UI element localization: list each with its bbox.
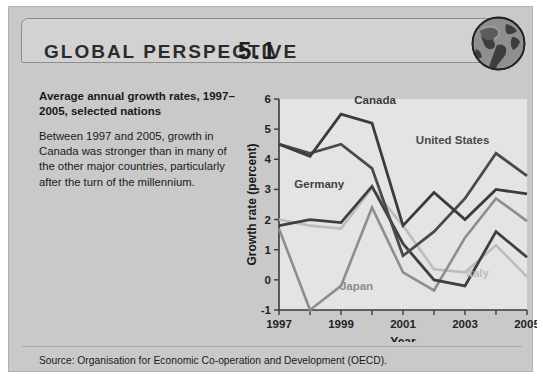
y-axis-tick-label: 4 [265,153,272,165]
y-axis-tick-label: 5 [265,123,272,135]
series-label-germany: Germany [294,178,344,190]
x-axis-tick-label: 1997 [266,318,292,330]
y-axis-title: Growth rate (percent) [245,143,259,265]
figure-page: GLOBAL PERSPECTIVE 5.1 Average [0,0,543,387]
footer-divider [22,346,522,347]
globe-icon [470,15,527,72]
chart-svg: -1012345619971999200120032005YearGrowth … [245,87,537,342]
header-banner: GLOBAL PERSPECTIVE 5.1 [21,18,499,63]
series-label-italy: Italy [466,267,490,279]
y-axis-tick-label: 3 [265,183,271,195]
y-axis-tick-label: -1 [261,304,272,316]
y-axis-tick-label: 6 [265,93,271,105]
series-label-japan: Japan [340,280,373,292]
x-axis-title: Year [390,335,416,342]
x-axis-tick-label: 2005 [514,318,537,330]
x-axis-tick-label: 2003 [452,318,478,330]
source-note: Source: Organisation for Economic Co-ope… [39,355,387,366]
panel-lead-text: Average annual growth rates, 1997–2005, … [39,89,239,119]
figure-number: 5.1 [238,37,277,65]
x-axis-tick-label: 1999 [328,318,354,330]
y-axis-tick-label: 0 [265,274,271,286]
series-label-canada: Canada [354,94,396,106]
x-axis-tick-label: 2001 [390,318,416,330]
y-axis-tick-label: 1 [265,244,272,256]
y-axis-tick-label: 2 [265,214,271,226]
panel-body-text: Between 1997 and 2005, growth in Canada … [39,129,244,190]
series-label-united-states: United States [416,134,490,146]
figure-card: GLOBAL PERSPECTIVE 5.1 Average [8,6,533,372]
growth-rate-line-chart: -1012345619971999200120032005YearGrowth … [245,87,537,342]
